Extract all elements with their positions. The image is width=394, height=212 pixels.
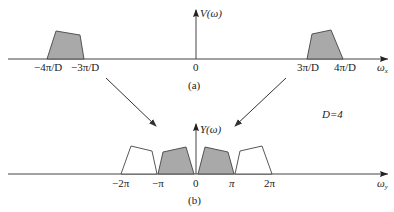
band-left-shaded (47, 31, 84, 59)
band-outer-left-empty (121, 146, 157, 174)
tick-label-a-pos4: 4π/D (334, 61, 356, 73)
tick-label-a-pos3: 3π/D (297, 61, 319, 73)
mapping-arrow-left (106, 78, 156, 126)
tick-label-b-negpi: −π (152, 177, 164, 189)
caption-b: (b) (188, 194, 201, 207)
origin-label-b: 0 (193, 177, 199, 189)
x-label-b: ωy (377, 177, 389, 191)
x-label-a: ωx (377, 61, 389, 75)
caption-a: (a) (188, 79, 201, 92)
tick-label-a-neg4: −4π/D (34, 61, 62, 73)
y-axis-arrow-icon (193, 9, 199, 17)
y-axis-arrow-icon (193, 123, 199, 131)
annotation-d: D=4 (321, 108, 343, 120)
band-outer-right-empty (235, 146, 272, 174)
plot-b: Y(ω) D=4 −2π −π 0 π 2π ωy (b) (8, 108, 389, 207)
spectrum-diagram: V(ω) 0 −4π/D −3π/D 3π/D 4π/D ωx (a) Y(ω)… (0, 0, 394, 212)
y-label-b: Y(ω) (200, 123, 222, 136)
y-label-a: V(ω) (200, 7, 222, 20)
band-inner-right-shaded (198, 147, 234, 174)
plot-a: V(ω) 0 −4π/D −3π/D 3π/D 4π/D ωx (a) (8, 7, 389, 92)
tick-label-b-neg2pi: −2π (112, 177, 130, 189)
tick-label-b-pi: π (229, 177, 235, 189)
origin-label-a: 0 (193, 61, 199, 73)
band-right-shaded (307, 30, 343, 59)
mapping-arrow-right (235, 78, 286, 126)
tick-label-a-neg3: −3π/D (71, 61, 99, 73)
tick-label-b-2pi: 2π (264, 177, 276, 189)
band-inner-left-shaded (158, 147, 194, 174)
